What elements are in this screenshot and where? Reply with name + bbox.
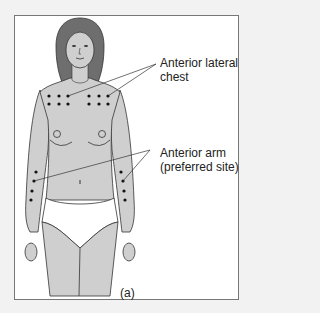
face <box>66 32 94 68</box>
arm-label: Anterior arm (preferred site) <box>160 146 239 174</box>
chest-label: Anterior lateral chest <box>160 56 238 84</box>
panel-label: (a) <box>120 286 135 300</box>
